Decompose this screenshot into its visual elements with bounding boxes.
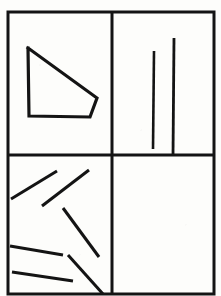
figure-root <box>0 0 221 296</box>
figure-canvas <box>0 0 221 296</box>
vertical-line-left <box>153 51 154 149</box>
vertical-line-right <box>173 38 174 156</box>
